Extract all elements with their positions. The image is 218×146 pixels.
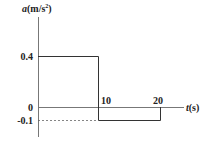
x-tick-label: 10 <box>101 95 111 106</box>
acceleration-time-chart: a(m/s2) 0.4 0 -0.1 10 20 t(s) <box>0 0 218 146</box>
acceleration-series-line <box>38 57 161 121</box>
y-axis-label: a(m/s2) <box>22 3 52 15</box>
x-tick-label: 20 <box>153 95 163 106</box>
y-tick-label: 0 <box>28 102 33 113</box>
y-tick-label: 0.4 <box>21 51 34 62</box>
x-axis-label: t(s) <box>186 102 199 114</box>
y-tick-label: -0.1 <box>17 115 33 126</box>
